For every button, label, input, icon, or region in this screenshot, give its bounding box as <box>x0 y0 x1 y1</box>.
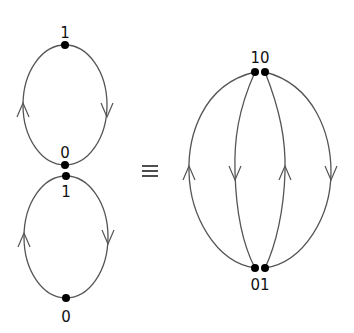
right-graph: 10 01 <box>183 49 337 294</box>
upper-loop-bottom-label: 0 <box>60 144 70 162</box>
inner-left-edge <box>235 72 255 268</box>
top-node-right <box>261 68 269 76</box>
diagram-canvas: 1 0 1 0 10 01 <box>0 0 354 333</box>
upper-loop-top-label: 1 <box>60 24 70 42</box>
upper-loop: 1 0 <box>17 24 113 169</box>
bottom-node-left <box>251 264 259 272</box>
bottom-node-right <box>261 264 269 272</box>
lower-loop-bottom-node <box>62 294 70 302</box>
lower-loop-top-label: 1 <box>61 183 71 201</box>
inner-right-edge <box>265 72 285 268</box>
lower-loop-top-node <box>62 172 70 180</box>
top-node-left <box>251 68 259 76</box>
equivalence-symbol <box>142 166 158 176</box>
lower-loop-bottom-label: 0 <box>61 308 71 326</box>
lower-loop: 1 0 <box>18 172 114 326</box>
top-label: 10 <box>250 49 269 67</box>
upper-loop-bottom-node <box>61 161 69 169</box>
bottom-label: 01 <box>250 276 269 294</box>
outer-left-edge <box>189 72 255 268</box>
upper-loop-top-node <box>61 41 69 49</box>
